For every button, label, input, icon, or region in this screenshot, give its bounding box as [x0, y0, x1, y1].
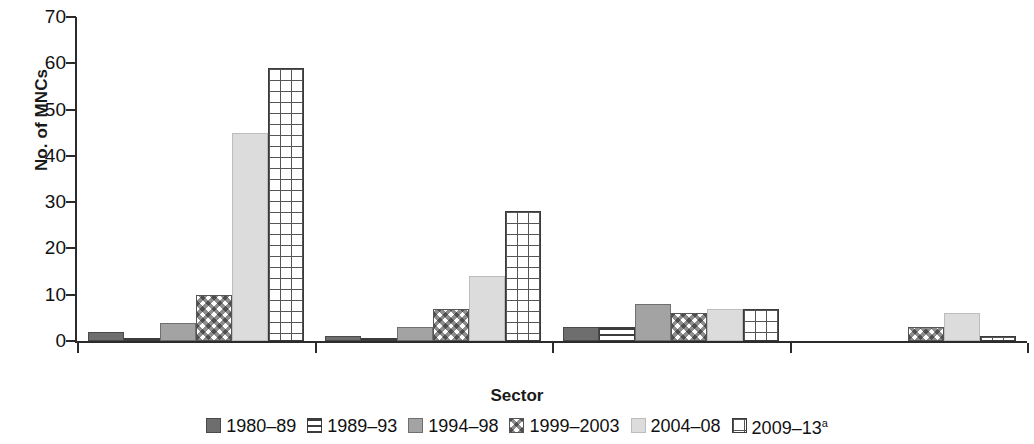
bar-group [800, 17, 1016, 341]
x-axis-tick [77, 343, 79, 353]
bar [707, 309, 743, 341]
bar [88, 332, 124, 341]
legend-item[interactable]: 2004–08 [631, 417, 721, 435]
legend-label: 1989–93 [327, 417, 397, 435]
bar [635, 304, 671, 341]
legend-item[interactable]: 2009–13a [732, 414, 828, 437]
legend-swatch-icon [307, 418, 322, 433]
y-axis-tick-label: 70 [14, 7, 66, 26]
x-axis-line [75, 341, 1027, 343]
bar [361, 338, 397, 341]
bar-group [325, 17, 541, 341]
x-axis-tick [315, 343, 317, 353]
y-axis-tick [66, 16, 76, 18]
legend-item[interactable]: 1999–2003 [509, 417, 619, 435]
legend-item[interactable]: 1989–93 [307, 417, 397, 435]
bar [505, 211, 541, 341]
bar [268, 68, 304, 341]
bar-group [88, 17, 304, 341]
legend-swatch-icon [408, 418, 423, 433]
legend-label: 2009–13a [752, 414, 828, 437]
legend-swatch-icon [732, 418, 747, 433]
x-axis-tick [790, 343, 792, 353]
legend-label: 1994–98 [428, 417, 498, 435]
legend-item[interactable]: 1980–89 [206, 417, 296, 435]
y-axis-tick [66, 201, 76, 203]
legend: 1980–891989–931994–981999–20032004–08200… [0, 414, 1034, 437]
legend-label-superscript: a [822, 417, 828, 429]
bar-chart: No. of MNCs 010203040506070 Sector 1980–… [0, 0, 1034, 444]
bar [908, 327, 944, 341]
y-axis-tick-label: 60 [14, 53, 66, 72]
legend-swatch-icon [509, 418, 524, 433]
legend-swatch-icon [631, 418, 646, 433]
y-axis-tick-label: 20 [14, 238, 66, 257]
bar [671, 313, 707, 341]
bar [980, 336, 1016, 341]
y-axis-tick-label: 30 [14, 192, 66, 211]
bar [397, 327, 433, 341]
legend-item[interactable]: 1994–98 [408, 417, 498, 435]
bar [743, 309, 779, 341]
legend-label: 1980–89 [226, 417, 296, 435]
y-axis-tick [66, 247, 76, 249]
bar [232, 133, 268, 341]
bar-group [563, 17, 779, 341]
y-axis-tick [66, 62, 76, 64]
x-axis-tick [552, 343, 554, 353]
bar [325, 336, 361, 341]
bar [944, 313, 980, 341]
y-axis-tick-label: 40 [14, 146, 66, 165]
bar [469, 276, 505, 341]
y-axis-tick-label: 50 [14, 100, 66, 119]
bar [160, 323, 196, 342]
bar [196, 295, 232, 341]
bar [599, 327, 635, 341]
bar [563, 327, 599, 341]
x-axis-title: Sector [0, 386, 1034, 406]
legend-swatch-icon [206, 418, 221, 433]
y-axis-tick-label: 0 [14, 331, 66, 350]
legend-label: 2004–08 [651, 417, 721, 435]
bar [433, 309, 469, 341]
bar [124, 338, 160, 341]
y-axis-tick [66, 155, 76, 157]
y-axis-tick [66, 294, 76, 296]
y-axis-tick [66, 109, 76, 111]
plot-area [77, 17, 1027, 341]
legend-label: 1999–2003 [529, 417, 619, 435]
y-axis-tick-label: 10 [14, 285, 66, 304]
x-axis-tick [1027, 343, 1029, 353]
